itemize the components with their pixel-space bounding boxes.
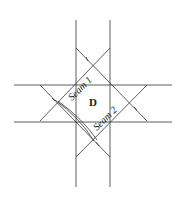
seam-diagram: D Seam 1 Seam 2 [0, 0, 183, 198]
diagonal-line-4 [76, 85, 147, 157]
tick-mark-bottom [96, 142, 99, 146]
region-label-d: D [89, 96, 97, 108]
